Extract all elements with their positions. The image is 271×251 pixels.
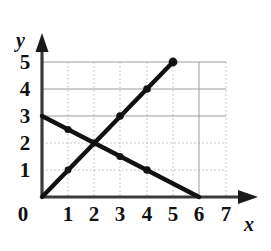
rising-line-marker — [65, 167, 72, 174]
x-axis-arrowhead — [238, 190, 258, 204]
y-tick-label-2: 2 — [16, 133, 34, 154]
falling-line-marker — [116, 153, 123, 160]
rising-line-endpoint — [169, 58, 178, 67]
rising-line-marker — [116, 112, 124, 120]
rising-line-path — [42, 62, 173, 197]
origin-tick-label-0: 0 — [14, 204, 32, 225]
x-tick-label-4: 4 — [138, 204, 156, 225]
x-tick-label-7: 7 — [217, 204, 235, 225]
y-axis-arrowhead — [36, 33, 49, 52]
y-axis-label: y — [16, 30, 25, 50]
y-tick-label-4: 4 — [16, 79, 34, 100]
x-tick-label-2: 2 — [85, 204, 103, 225]
falling-line-marker — [143, 166, 151, 174]
x-axis-label: x — [244, 214, 254, 234]
x-tick-label-1: 1 — [59, 204, 77, 225]
x-tick-label-5: 5 — [164, 204, 182, 225]
y-tick-label-3: 3 — [16, 106, 34, 127]
y-tick-label-5: 5 — [16, 52, 34, 73]
rising-line-marker — [143, 85, 151, 93]
x-tick-label-3: 3 — [111, 204, 129, 225]
y-tick-label-1: 1 — [16, 160, 34, 181]
x-tick-label-6: 6 — [190, 204, 208, 225]
falling-line-marker — [64, 126, 71, 133]
series-falling-line — [42, 116, 199, 197]
chart-figure: 5 4 3 2 1 0 1 2 3 4 5 6 7 y x — [0, 0, 271, 251]
